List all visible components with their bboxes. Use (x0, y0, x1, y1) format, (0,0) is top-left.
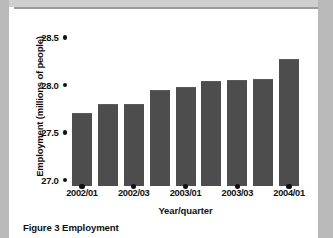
x-label-slot: 2003/01 (173, 186, 199, 200)
bar (176, 87, 196, 186)
page-margin-left (0, 0, 9, 238)
x-tick-label: 2002/03 (118, 188, 150, 198)
y-tick-label: 28.5 (41, 32, 58, 43)
y-tick-dot-icon (63, 83, 68, 88)
bar-slot (69, 34, 95, 186)
bar (253, 79, 273, 186)
x-label-slot (147, 186, 173, 200)
bar (150, 90, 170, 186)
bar-slot (276, 34, 302, 186)
x-tick-label: 2002/01 (66, 188, 98, 198)
y-tick-label: 28.0 (41, 80, 58, 91)
y-tick: 28.5 (41, 32, 69, 44)
bar-series (69, 34, 302, 186)
bar-slot (224, 34, 250, 186)
bar (124, 104, 144, 186)
bar (72, 113, 92, 186)
bar (201, 81, 221, 187)
x-label-slot: 2003/03 (224, 186, 250, 200)
y-axis-title: Employment (millions of people) (34, 32, 45, 182)
y-tick-dot-icon (63, 35, 68, 40)
x-axis-ticks: 2002/012002/032003/012003/032004/01 (69, 186, 302, 200)
page-margin-right (318, 0, 333, 238)
bar-slot (173, 34, 199, 186)
y-tick-dot-icon (63, 178, 68, 183)
y-tick-dot-icon (63, 130, 68, 135)
page-margin-top (9, 0, 318, 7)
bar (98, 104, 118, 186)
bar-slot (121, 34, 147, 186)
x-label-slot (250, 186, 276, 200)
employment-bar-chart: Employment (millions of people) 27.027.5… (9, 9, 318, 238)
bar (227, 80, 247, 186)
y-tick: 27.5 (41, 127, 69, 139)
x-label-slot (198, 186, 224, 200)
figure-caption: Figure 3 Employment (23, 222, 119, 233)
plot-area: 27.027.528.028.5 2002/012002/032003/0120… (69, 34, 302, 186)
bar-slot (250, 34, 276, 186)
x-label-slot: 2004/01 (276, 186, 302, 200)
y-tick: 28.0 (41, 79, 69, 91)
x-tick-label: 2003/01 (170, 188, 202, 198)
bar (279, 59, 299, 186)
y-tick-label: 27.5 (41, 127, 58, 138)
x-label-slot: 2002/01 (69, 186, 95, 200)
figure-page: Employment (millions of people) 27.027.5… (0, 0, 333, 238)
x-tick-label: 2004/01 (273, 188, 305, 198)
y-tick-label: 27.0 (41, 175, 58, 186)
y-tick: 27.0 (41, 174, 69, 186)
bar-slot (198, 34, 224, 186)
bar-slot (147, 34, 173, 186)
x-tick-label: 2003/03 (222, 188, 254, 198)
bar-slot (95, 34, 121, 186)
x-label-slot (95, 186, 121, 200)
x-axis-title: Year/quarter (69, 205, 302, 216)
x-label-slot: 2002/03 (121, 186, 147, 200)
